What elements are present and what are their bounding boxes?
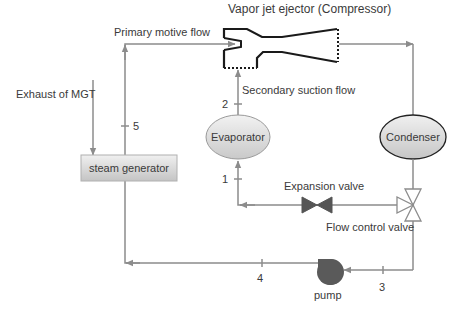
state-point-5: 5 <box>133 120 139 133</box>
secondary-suction-flow-label: Secondary suction flow <box>242 84 355 97</box>
ejector-icon <box>224 29 338 68</box>
state-point-3: 3 <box>379 281 385 294</box>
state-point-2: 2 <box>222 98 228 111</box>
state-point-4: 4 <box>257 272 263 285</box>
expansion-valve-label: Expansion valve <box>284 180 364 193</box>
pump-icon <box>317 259 344 285</box>
expansion-valve-icon <box>302 197 332 213</box>
flow-control-valve-label: Flow control valve <box>326 221 414 234</box>
primary-motive-flow-label: Primary motive flow <box>114 26 210 39</box>
state-point-1: 1 <box>222 173 228 186</box>
pump-label: pump <box>314 289 342 302</box>
pump-to-steam-generator-line <box>125 181 318 263</box>
ejector-cycle-diagram: Vapor jet ejector (Compressor) Primary m… <box>0 0 466 315</box>
diagram-graphics <box>0 0 466 315</box>
exhaust-of-mgt-label: Exhaust of MGT <box>16 88 95 101</box>
condenser-label: Condenser <box>380 131 446 144</box>
steam-generator-label: steam generator <box>81 162 177 175</box>
ejector-title: Vapor jet ejector (Compressor) <box>228 3 391 16</box>
evaporator-label: Evaporator <box>206 131 270 144</box>
flow-control-valve-icon <box>397 189 421 221</box>
